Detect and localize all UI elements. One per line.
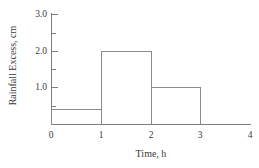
x-tick-label-4: 4	[240, 130, 259, 140]
y-tick-label-1: 1.0	[21, 82, 47, 92]
chart-screenshot: 1.0 2.0 3.0 0 1 2 3 4 Time, h Rainfall E…	[0, 0, 259, 168]
plot-area: 1.0 2.0 3.0 0 1 2 3 4 Time, h Rainfall E…	[0, 0, 259, 168]
y-tick-minor-0-5	[52, 106, 56, 107]
y-axis-title: Rainfall Excess, cm	[7, 6, 18, 126]
y-tick-major-1	[52, 87, 58, 88]
bar-0-1	[51, 109, 102, 125]
y-tick-major-2	[52, 51, 58, 52]
x-tick-label-1: 1	[91, 130, 111, 140]
y-tick-minor-2-5	[52, 33, 56, 34]
bar-2-3	[151, 87, 201, 125]
x-tick-label-3: 3	[190, 130, 210, 140]
x-axis-title: Time, h	[51, 148, 251, 159]
y-tick-label-2: 2.0	[21, 46, 47, 56]
x-tick-label-0: 0	[41, 130, 61, 140]
y-tick-label-3: 3.0	[21, 9, 47, 19]
y-tick-major-3	[52, 14, 58, 15]
x-tick-label-2: 2	[141, 130, 161, 140]
bar-1-2	[101, 51, 152, 125]
y-tick-minor-1-5	[52, 69, 56, 70]
